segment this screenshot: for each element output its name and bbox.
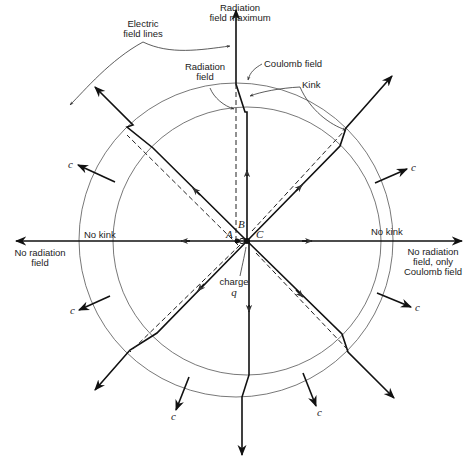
label-point-c: C <box>256 228 264 240</box>
label-c-4: c <box>415 301 420 313</box>
pointer-kink-1 <box>250 87 300 96</box>
charge-dot <box>244 238 250 244</box>
dashed-reference-lr <box>256 253 348 350</box>
pointer-radiation-field <box>210 88 234 109</box>
label-radiation-field-2: field <box>196 71 213 82</box>
pointer-coulomb-field <box>248 64 262 80</box>
field-line-lower-left <box>95 241 247 390</box>
dashed-reference-ll <box>130 245 240 352</box>
point-a-dot <box>235 239 240 244</box>
label-point-a: A <box>225 228 233 240</box>
pointer-charge <box>240 247 246 276</box>
velocity-arrow-icon <box>377 293 411 307</box>
field-line-up <box>236 10 247 241</box>
label-c-2: c <box>411 161 416 173</box>
label-radiation-field-maximum-2: field maximum <box>209 12 270 23</box>
label-coulomb-field: Coulomb field <box>264 58 322 69</box>
pointer-electric-field-lines-2 <box>143 42 230 50</box>
label-no-radiation-right-3: Coulomb field <box>404 266 462 277</box>
velocity-arrow-icon <box>303 373 316 406</box>
velocity-arrow-icon <box>176 377 189 410</box>
arrow-icon <box>193 188 200 195</box>
dashed-reference-ur <box>252 130 345 231</box>
label-c-5: c <box>171 410 176 422</box>
radiation-diagram: Radiation field maximum Electric field l… <box>0 0 475 464</box>
label-c-6: c <box>317 406 322 418</box>
label-kink: Kink <box>302 79 321 90</box>
pointer-electric-field-lines <box>70 42 143 105</box>
field-line-upper-left <box>95 87 247 241</box>
pointer-kink-2 <box>300 87 346 130</box>
label-c-3: c <box>70 304 75 316</box>
label-electric-field-lines-2: field lines <box>123 28 163 39</box>
label-no-radiation-left-2: field <box>31 257 48 268</box>
label-charge-q: q <box>231 286 237 298</box>
velocity-arrows <box>78 165 411 410</box>
label-point-b: B <box>238 218 245 230</box>
field-line-lower-right <box>247 241 394 398</box>
dashed-reference-ul <box>127 135 238 245</box>
label-c-1: c <box>68 158 73 170</box>
arrow-icon <box>296 185 302 191</box>
label-no-kink-right: No kink <box>371 226 403 237</box>
field-line-down <box>242 241 249 455</box>
label-no-kink-left: No kink <box>84 229 116 240</box>
